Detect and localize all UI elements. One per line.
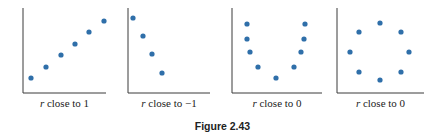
- data-point: [302, 21, 307, 26]
- scatter-figure: r close to 1r close to −1r close to 0r c…: [0, 0, 445, 138]
- data-point: [72, 41, 77, 46]
- panel-caption: r close to 0: [356, 97, 406, 109]
- data-point: [398, 69, 403, 74]
- data-point: [356, 69, 361, 74]
- scatter-panel-1: r close to 1: [23, 8, 107, 109]
- data-point: [356, 29, 361, 34]
- data-point: [244, 21, 249, 26]
- data-point: [101, 18, 106, 23]
- data-point: [398, 29, 403, 34]
- data-point: [298, 49, 303, 54]
- data-point: [159, 70, 164, 75]
- panel-caption: r close to 1: [40, 97, 89, 109]
- data-point: [301, 36, 306, 41]
- panel-caption: r close to 0: [252, 97, 302, 109]
- data-point: [247, 49, 252, 54]
- panel-caption: r close to −1: [141, 97, 196, 109]
- data-point: [244, 36, 249, 41]
- data-point: [140, 33, 145, 38]
- data-point: [58, 52, 63, 57]
- data-point: [149, 51, 154, 56]
- data-point: [86, 29, 91, 34]
- data-point: [130, 15, 135, 20]
- scatter-panel-2: r close to −1: [128, 8, 210, 109]
- data-point: [406, 49, 411, 54]
- data-point: [347, 49, 352, 54]
- data-point: [43, 64, 48, 69]
- data-point: [28, 75, 33, 80]
- axes: [23, 8, 106, 93]
- axes: [128, 8, 210, 93]
- scatter-panel-3: r close to 0: [232, 8, 322, 109]
- data-point: [377, 77, 382, 82]
- data-point: [377, 20, 382, 25]
- data-point: [255, 64, 260, 69]
- data-point: [291, 64, 296, 69]
- data-point: [273, 75, 278, 80]
- scatter-panel-4: r close to 0: [337, 8, 424, 109]
- figure-title: Figure 2.43: [0, 120, 445, 132]
